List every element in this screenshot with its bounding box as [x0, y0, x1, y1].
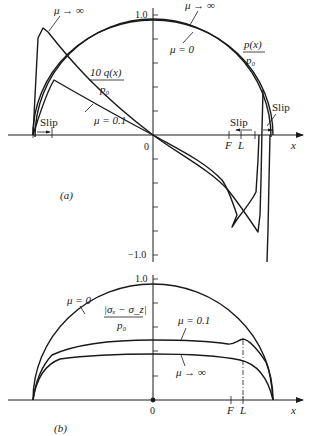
leader-mu-inf-left [49, 16, 60, 31]
label-mu-zero-a: μ = 0 [169, 43, 194, 55]
label-slip-mid: Slip [230, 116, 248, 128]
shear-curve-mu-01 [33, 80, 259, 227]
leader-mu-01-b [181, 328, 186, 340]
label-pressure-den: p₀ [245, 54, 256, 66]
label-mu-inf-top-a: μ → ∞ [184, 0, 215, 11]
label-pressure-num: p(x) [243, 38, 262, 51]
label-mu-inf-left-a: μ → ∞ [53, 4, 84, 16]
leader-mu-01 [85, 104, 93, 112]
y-tick-minus1-a: −1.0 [128, 249, 146, 260]
panel-b: 1.0 0 x F L μ = 0 |σₓ − σ_z| p₀ μ = 0.1 … [8, 273, 303, 435]
shear-right-edge [267, 135, 270, 262]
x-axis-label-b: x [290, 404, 296, 416]
y-tick-1-b: 1.0 [135, 273, 148, 284]
label-mu-zero-b: μ = 0 [66, 294, 91, 306]
panel-a: 1.0 −1.0 0 x F L μ → ∞ μ → ∞ μ = 0 10 q(… [8, 0, 303, 262]
y-ticks-b [153, 279, 158, 376]
y-tick-1-a: 1.0 [135, 9, 148, 20]
label-stress-num: |σₓ − σ_z| [104, 303, 147, 315]
leader-mu-zero-b [80, 306, 85, 314]
caption-b: (b) [54, 422, 67, 435]
label-shear-num: 10 q(x) [90, 66, 122, 79]
label-stress-den: p₀ [116, 319, 127, 331]
leader-mu-inf-b [181, 355, 185, 366]
leader-mu-inf-top [190, 11, 198, 25]
shear-curve-mu-inf [33, 28, 263, 232]
origin-label-a: 0 [144, 141, 149, 152]
x-axis-label-a: x [290, 139, 296, 151]
label-mu-01-b: μ = 0.1 [177, 314, 210, 326]
label-mu-inf-b: μ → ∞ [175, 366, 206, 378]
F-label-b: F [226, 404, 234, 416]
L-label-b: L [239, 404, 246, 416]
leader-mu-zero [183, 32, 193, 43]
F-label-a: F [224, 139, 232, 151]
origin-dot-b [151, 398, 156, 403]
label-slip-right: Slip [272, 101, 290, 113]
label-slip-left: Slip [40, 116, 58, 128]
origin-label-b: 0 [150, 405, 155, 416]
label-mu-01-a: μ = 0.1 [93, 114, 126, 126]
label-shear-den: p₀ [99, 83, 110, 95]
contact-stress-diagram: 1.0 −1.0 0 x F L μ → ∞ μ → ∞ μ = 0 10 q(… [0, 0, 316, 436]
L-label-a: L [237, 139, 244, 151]
caption-a: (a) [60, 189, 73, 202]
